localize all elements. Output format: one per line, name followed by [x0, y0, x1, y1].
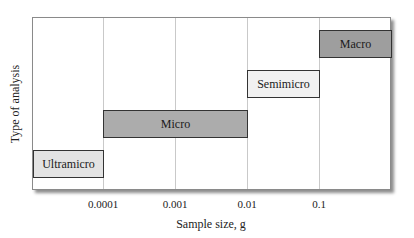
- bar-macro: Macro: [319, 30, 392, 58]
- bar-micro: Micro: [103, 110, 248, 138]
- plot-area: Ultramicro Micro Semimicro Macro: [32, 17, 391, 190]
- x-tick-label: 0.001: [163, 198, 188, 210]
- x-axis-label: Sample size, g: [176, 217, 246, 232]
- bar-ultramicro: Ultramicro: [33, 150, 104, 178]
- y-axis-label: Type of analysis: [8, 65, 23, 143]
- bar-label: Macro: [340, 37, 371, 52]
- gridline-0.01: [247, 18, 248, 189]
- bar-semimicro: Semimicro: [247, 70, 320, 98]
- bar-label: Micro: [161, 117, 190, 132]
- x-tick-label: 0.0001: [88, 198, 118, 210]
- x-tick-label: 0.1: [312, 198, 326, 210]
- x-tick-label: 0.01: [237, 198, 256, 210]
- bar-label: Ultramicro: [42, 157, 95, 172]
- gridline-0.001: [175, 18, 176, 189]
- bar-label: Semimicro: [257, 77, 310, 92]
